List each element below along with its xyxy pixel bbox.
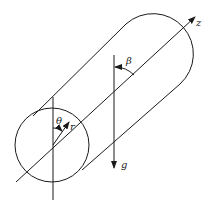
cylinder-diagram: z g β r θ xyxy=(0,0,214,210)
back-cap-arc xyxy=(126,14,193,84)
r-label: r xyxy=(70,121,76,132)
beta-label: β xyxy=(125,55,132,66)
cylinder-bottom-edge xyxy=(82,84,180,170)
z-axis xyxy=(16,17,195,182)
theta-angle-arc xyxy=(53,128,62,131)
theta-label: θ xyxy=(56,115,62,126)
cylinder-top-edge xyxy=(33,24,126,116)
beta-angle-arc xyxy=(115,67,134,75)
z-label: z xyxy=(195,17,202,28)
g-label: g xyxy=(121,159,127,170)
front-circle xyxy=(15,108,89,182)
